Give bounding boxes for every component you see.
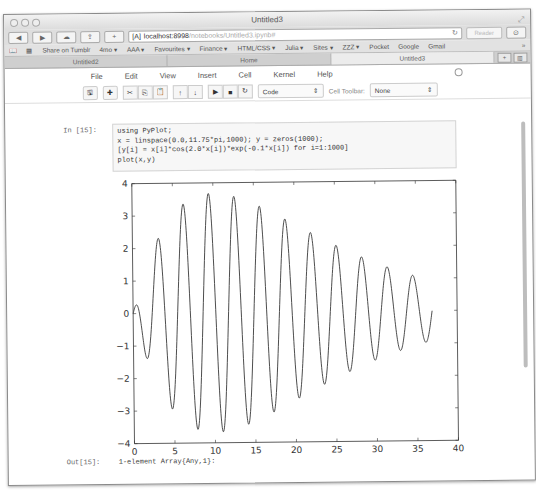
x-tick-label: 5	[172, 446, 178, 456]
icloud-button[interactable]: ☁	[56, 31, 76, 43]
menu-file[interactable]: File	[91, 71, 103, 80]
input-prompt: In [15]:	[63, 126, 97, 134]
select-arrows-icon: ⇕	[313, 87, 319, 95]
menu-cell[interactable]: Cell	[239, 70, 252, 79]
paste-icon: 📋	[156, 88, 165, 96]
save-button[interactable]: 🖫	[83, 86, 98, 100]
bookmark-item[interactable]: Julia ▾	[285, 43, 304, 51]
bookmark-item[interactable]: Favourites ▾	[154, 45, 190, 53]
cell-toolbar-value: None	[375, 86, 391, 93]
x-tick-label: 0	[132, 447, 138, 457]
reading-list-icon[interactable]: 📖	[9, 46, 17, 54]
y-tick-label: 3	[122, 211, 128, 221]
bookmark-item[interactable]: HTML/CSS ▾	[237, 44, 276, 52]
forward-arrow-icon: ▶	[40, 33, 45, 41]
bookmark-item[interactable]: Google	[398, 43, 419, 50]
menu-edit[interactable]: Edit	[125, 71, 138, 80]
x-tick-label: 10	[210, 446, 222, 456]
bookmark-item[interactable]: Share on Tumblr	[42, 46, 90, 54]
notebook-area: In [15]: using PyPlot; x = linspace(0.0,…	[5, 113, 535, 484]
bookmark-item[interactable]: ZZZ ▾	[343, 43, 361, 51]
fullscreen-icon[interactable]: ⤢	[518, 12, 524, 27]
forward-button[interactable]: ▶	[32, 31, 52, 43]
add-cell-icon: ✚	[107, 89, 113, 97]
y-tick-label: −2	[116, 374, 129, 384]
bookmark-item[interactable]: Finance ▾	[199, 44, 228, 52]
reload-icon[interactable]: ↻	[452, 29, 458, 37]
plot-axes: 0510152025303540−4−3−2−101234	[114, 175, 464, 457]
url-host: localhost:8998	[144, 32, 189, 39]
bookmark-item[interactable]: AAA ▾	[127, 45, 146, 53]
x-tick-label: 35	[412, 444, 424, 454]
cloud-icon: ☁	[63, 33, 70, 41]
y-tick-label: 1	[123, 276, 129, 286]
bookmark-item[interactable]: Gmail	[428, 42, 445, 49]
plus-icon: +	[112, 33, 116, 40]
y-tick-label: −1	[116, 341, 129, 351]
cell-toolbar-label: Cell Toolbar:	[329, 87, 365, 94]
paste-button[interactable]: 📋	[153, 85, 168, 99]
close-window-button[interactable]	[10, 19, 18, 27]
menu-help[interactable]: Help	[317, 69, 333, 78]
x-tick-label: 40	[453, 443, 465, 453]
back-button[interactable]: ◀	[8, 31, 28, 43]
move-down-button[interactable]: ↓	[188, 85, 203, 99]
interrupt-button[interactable]: ■	[223, 85, 238, 99]
x-tick-label: 30	[372, 444, 384, 454]
tab-home[interactable]: Home	[168, 54, 331, 67]
restart-button[interactable]: ↻	[238, 84, 253, 98]
minimize-window-button[interactable]	[21, 19, 29, 27]
bookmark-item[interactable]: Sites ▾	[313, 43, 333, 51]
cell-toolbar-select[interactable]: None ⇕	[370, 82, 438, 97]
run-button[interactable]: ▶	[208, 85, 223, 99]
scrollbar[interactable]	[521, 122, 528, 368]
copy-icon: ⎘	[142, 88, 148, 96]
stop-icon: ■	[228, 88, 232, 95]
insert-cell-button[interactable]: ✚	[103, 86, 118, 100]
share-icon: ⇪	[87, 33, 93, 41]
back-arrow-icon: ◀	[16, 33, 21, 41]
top-sites-icon[interactable]: ▦	[26, 46, 33, 54]
move-up-button[interactable]: ↑	[173, 85, 188, 99]
y-tick-label: −4	[117, 439, 131, 449]
code-cell-input[interactable]: using PyPlot; x = linspace(0.0,11.75*pi,…	[112, 120, 456, 172]
menu-kernel[interactable]: Kernel	[273, 69, 295, 78]
cell-type-select[interactable]: Code ⇕	[258, 84, 324, 99]
y-tick-label: 2	[123, 244, 129, 254]
menu-insert[interactable]: Insert	[198, 70, 217, 79]
cut-icon: ✂	[127, 89, 133, 97]
move-down-icon: ↓	[194, 88, 198, 95]
favicon-icon: [A]	[132, 33, 141, 40]
y-tick-label: 4	[122, 179, 128, 189]
zoom-window-button[interactable]	[32, 19, 40, 27]
download-icon: ⊙	[513, 28, 519, 36]
tab-untitled2[interactable]: Untitled2	[4, 55, 167, 68]
downloads-button[interactable]: ⊙	[506, 26, 526, 38]
tab-untitled3[interactable]: Untitled3	[331, 52, 494, 65]
run-icon: ▶	[213, 88, 218, 96]
x-tick-label: 15	[250, 445, 262, 455]
select-arrows-icon: ⇕	[427, 86, 433, 94]
tab-overview-button[interactable]: ▥	[513, 53, 527, 63]
copy-button[interactable]: ⎘	[138, 85, 153, 99]
y-tick-label: −3	[117, 406, 130, 416]
url-path: /notebooks/Untitled3.ipynb#	[189, 31, 275, 39]
cut-button[interactable]: ✂	[123, 86, 138, 100]
x-tick-label: 25	[331, 444, 343, 454]
reader-button[interactable]: Reader	[466, 26, 502, 38]
bookmark-item[interactable]: 4mo ▾	[99, 45, 118, 53]
browser-window: Untitled3 ⤢ ◀ ▶ ☁ ⇪ + [A] localhost:8998…	[3, 8, 536, 486]
share-button[interactable]: ⇪	[80, 30, 100, 42]
new-tab-button[interactable]: +	[497, 53, 511, 63]
cell-type-value: Code	[263, 88, 279, 95]
plot-figure: 0510152025303540−4−3−2−101234	[110, 172, 473, 466]
cell-output-text: 1-element Array{Any,1}:	[119, 457, 216, 466]
bookmark-item[interactable]: Pocket	[369, 43, 389, 50]
move-up-icon: ↑	[179, 89, 183, 96]
window-title: Untitled3	[251, 15, 283, 24]
bookmarks-overflow-button[interactable]: »	[522, 42, 526, 49]
output-prompt: Out[15]:	[67, 458, 101, 466]
y-tick-label: 0	[123, 309, 129, 319]
menu-view[interactable]: View	[160, 71, 176, 80]
add-button[interactable]: +	[104, 30, 124, 42]
